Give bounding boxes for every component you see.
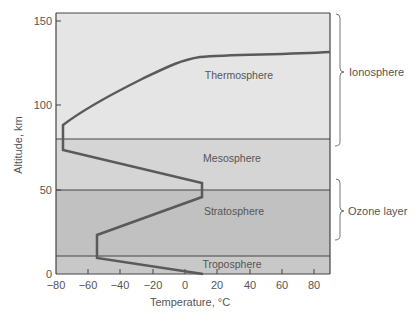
- mesosphere-band: [56, 139, 330, 190]
- x-tick-40: 40: [244, 279, 256, 291]
- atmosphere-temperature-chart: 150 100 50 0 −80 −60 −40 −20 0 20 40 60 …: [0, 0, 417, 319]
- y-tick-100: 100: [34, 99, 52, 111]
- x-tick-neg20: −20: [144, 279, 163, 291]
- ionosphere-label: Ionosphere: [349, 66, 404, 78]
- x-tick-60: 60: [276, 279, 288, 291]
- y-tick-50: 50: [40, 184, 52, 196]
- ozone-layer-label: Ozone layer: [348, 205, 408, 217]
- thermosphere-band: [56, 13, 330, 139]
- stratosphere-label: Stratosphere: [204, 205, 264, 217]
- ionosphere-bracket: [335, 14, 344, 146]
- y-axis-label: Altitude, km: [12, 116, 24, 173]
- x-tick-neg60: −60: [79, 279, 98, 291]
- thermosphere-label: Thermosphere: [205, 69, 273, 81]
- x-tick-80: 80: [308, 279, 320, 291]
- x-tick-neg40: −40: [111, 279, 130, 291]
- ozone-bracket: [335, 179, 344, 240]
- y-tick-150: 150: [34, 15, 52, 27]
- troposphere-label: Troposphere: [202, 258, 261, 270]
- x-tick-0: 0: [182, 279, 188, 291]
- x-tick-labels: −80 −60 −40 −20 0 20 40 60 80: [47, 279, 320, 291]
- x-tick-neg80: −80: [47, 279, 66, 291]
- x-tick-20: 20: [211, 279, 223, 291]
- mesosphere-label: Mesosphere: [203, 152, 261, 164]
- y-tick-labels: 150 100 50 0: [34, 15, 52, 280]
- x-axis-label: Temperature, °C: [150, 296, 230, 308]
